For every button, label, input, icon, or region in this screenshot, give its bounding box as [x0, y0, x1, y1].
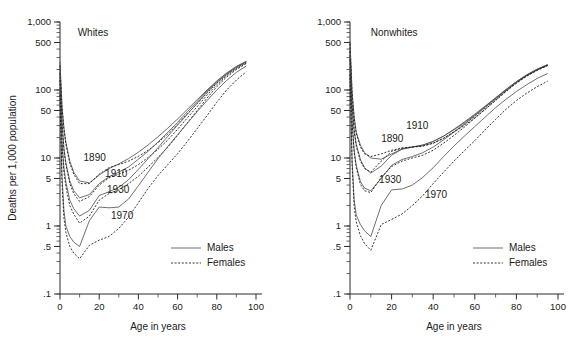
x-axis-title: Age in years — [130, 321, 186, 332]
x-tick-label: 40 — [428, 301, 439, 312]
x-tick-label: 100 — [248, 301, 264, 312]
series-line-1910-females — [350, 51, 548, 172]
y-tick-label: 100 — [325, 84, 341, 95]
deaths-by-age-log-chart: 1,000500100501051.5.1020406080100Age in … — [0, 0, 573, 344]
panel-title: Nonwhites — [371, 27, 418, 38]
series-line-1890-males — [350, 41, 548, 159]
series-year-label-1970: 1970 — [425, 189, 448, 200]
y-tick-label: 100 — [35, 84, 51, 95]
x-axis-title: Age in years — [426, 321, 482, 332]
series-year-label-1890: 1890 — [84, 152, 107, 163]
y-tick-label: 1,000 — [27, 16, 51, 27]
x-tick-label: 20 — [386, 301, 397, 312]
series-line-1970-females — [350, 74, 548, 250]
y-tick-label: 5 — [336, 173, 341, 184]
legend-label-males: Males — [509, 242, 536, 253]
series-year-label-1910: 1910 — [406, 120, 429, 131]
y-tick-label: 50 — [330, 105, 341, 116]
y-axis-title: Deaths per 1,000 population — [7, 95, 18, 221]
y-tick-label: .5 — [333, 241, 341, 252]
y-tick-label: 10 — [330, 152, 341, 163]
series-line-1910-males — [60, 62, 246, 198]
series-line-1930-males — [60, 62, 246, 216]
series-line-1930-males — [350, 55, 548, 191]
legend-label-females: Females — [509, 257, 547, 268]
y-tick-label: 10 — [40, 152, 51, 163]
y-tick-label: 500 — [325, 37, 341, 48]
x-tick-label: 40 — [133, 301, 144, 312]
figure-chart-panel-pair: 1,000500100501051.5.1020406080100Age in … — [0, 0, 573, 344]
series-line-1930-females — [60, 64, 246, 224]
x-tick-label: 60 — [172, 301, 183, 312]
y-tick-label: 500 — [35, 37, 51, 48]
x-tick-label: 0 — [57, 301, 62, 312]
panel-nonwhites: 1,000500100501051.5.1020406080100Age in … — [317, 16, 566, 332]
panel-title: Whites — [78, 27, 109, 38]
series-line-1970-males — [350, 68, 548, 236]
y-tick-label: 1 — [46, 220, 51, 231]
series-line-1890-females — [350, 44, 548, 157]
x-tick-label: 100 — [550, 301, 566, 312]
legend-label-males: Males — [207, 242, 234, 253]
series-line-1930-females — [350, 60, 548, 193]
series-year-label-1910: 1910 — [105, 168, 128, 179]
y-tick-label: 1,000 — [317, 16, 341, 27]
series-line-1910-males — [350, 48, 548, 173]
x-tick-label: 20 — [94, 301, 105, 312]
y-tick-label: .1 — [43, 288, 51, 299]
y-tick-label: .1 — [333, 288, 341, 299]
series-year-label-1930: 1930 — [107, 184, 130, 195]
y-tick-label: 50 — [40, 105, 51, 116]
series-year-label-1890: 1890 — [381, 133, 404, 144]
panel-whites: 1,000500100501051.5.1020406080100Age in … — [27, 16, 264, 332]
series-year-label-1970: 1970 — [111, 210, 134, 221]
series-line-1910-females — [60, 63, 246, 201]
x-tick-label: 80 — [511, 301, 522, 312]
series-year-label-1930: 1930 — [379, 174, 402, 185]
legend-label-females: Females — [207, 257, 245, 268]
y-tick-label: 5 — [46, 173, 51, 184]
x-tick-label: 80 — [212, 301, 223, 312]
x-tick-label: 60 — [470, 301, 481, 312]
y-tick-label: 1 — [336, 220, 341, 231]
x-tick-label: 0 — [347, 301, 352, 312]
y-tick-label: .5 — [43, 241, 51, 252]
